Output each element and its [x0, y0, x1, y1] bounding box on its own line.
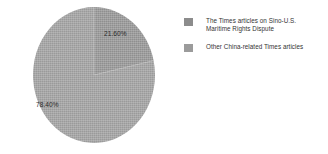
pie-slice-value-label-large: 78.40% — [36, 101, 59, 108]
legend-item-sino-us-maritime[interactable]: The Times articles on Sino-U.S. Maritime… — [184, 17, 328, 34]
legend-label-other-china-related: Other China-related Times articles — [206, 43, 303, 51]
pie-chart-figure: 21.60% 78.40% The Times articles on Sino… — [0, 0, 328, 154]
legend-label-line-1: Other China-related Times articles — [206, 43, 303, 51]
legend-item-other-china-related[interactable]: Other China-related Times articles — [184, 43, 328, 52]
pie-slice-value-label-small: 21.60% — [104, 30, 127, 37]
pie-chart-graphic — [33, 7, 155, 143]
legend-label-sino-us-maritime: The Times articles on Sino-U.S. Maritime… — [206, 17, 296, 34]
legend-swatch-icon-sino-us-maritime — [184, 18, 193, 26]
legend-label-line-1: The Times articles on Sino-U.S. — [206, 17, 296, 25]
chart-legend: The Times articles on Sino-U.S. Maritime… — [184, 17, 328, 61]
pie-svg — [33, 7, 155, 143]
legend-label-line-2: Maritime Rights Dispute — [206, 25, 296, 33]
legend-swatch-icon-other-china-related — [184, 44, 193, 52]
